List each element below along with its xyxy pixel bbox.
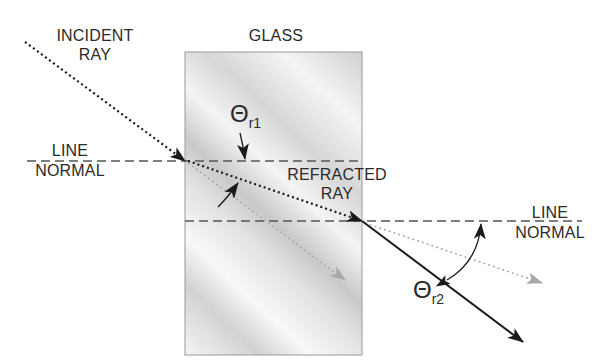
normal-left-label-line1: LINE bbox=[20, 141, 120, 160]
incident-ray-label: INCIDENT RAY bbox=[40, 26, 150, 64]
glass-block bbox=[185, 52, 362, 355]
refracted-ray-label: REFRACTED RAY bbox=[282, 165, 392, 203]
theta-r1-subscript: r1 bbox=[249, 115, 261, 131]
normal-left-label: LINE NORMAL bbox=[20, 141, 120, 180]
normal-right-label-line2: NORMAL bbox=[500, 223, 600, 242]
theta-r2-symbol: Θ bbox=[413, 276, 432, 303]
normal-right-label: LINE NORMAL bbox=[500, 203, 600, 242]
glass-label: GLASS bbox=[226, 26, 326, 45]
theta-r2-label: Θr2 bbox=[413, 278, 444, 311]
incident-ray-label-line1: INCIDENT bbox=[40, 26, 150, 45]
theta-r1-symbol: Θ bbox=[230, 100, 249, 127]
refracted-ray-label-line2: RAY bbox=[282, 184, 392, 203]
normal-right-label-line1: LINE bbox=[500, 203, 600, 222]
normal-left-label-line2: NORMAL bbox=[20, 161, 120, 180]
theta-r1-label: Θr1 bbox=[230, 102, 261, 135]
refracted-ray-label-line1: REFRACTED bbox=[282, 165, 392, 184]
refraction-diagram: INCIDENT RAY GLASS LINE NORMAL REFRACTED… bbox=[0, 0, 610, 363]
incident-ray-label-line2: RAY bbox=[40, 45, 150, 64]
theta-r2-subscript: r2 bbox=[432, 291, 444, 307]
